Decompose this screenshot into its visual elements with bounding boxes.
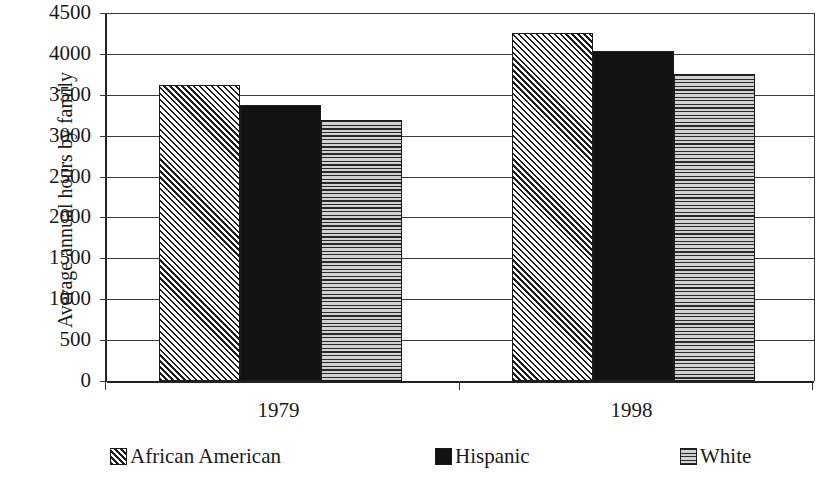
y-axis-tick-label: 3500 [29, 84, 91, 105]
y-axis-tick-label: 3000 [29, 125, 91, 146]
legend-label: Hispanic [455, 446, 530, 467]
gridline [107, 13, 814, 14]
bar-chart: Average annual hours by family 050010001… [0, 0, 826, 489]
chart-legend: African AmericanHispanicWhite [105, 446, 805, 478]
y-axis-tickmark [100, 95, 108, 96]
y-axis-tickmark [100, 381, 108, 382]
y-axis-tick-label: 500 [29, 329, 91, 350]
y-axis-tickmark [100, 299, 108, 300]
legend-label: African American [130, 446, 281, 467]
bar [240, 105, 321, 381]
legend-item: Hispanic [435, 446, 530, 467]
category-axis-tickmark [812, 381, 813, 390]
legend-swatch [435, 448, 452, 465]
bar [593, 51, 674, 381]
category-axis-label: 1979 [219, 400, 339, 421]
y-axis-tickmark [100, 340, 108, 341]
y-axis-tickmark [100, 177, 108, 178]
y-axis-tick-label: 4000 [29, 43, 91, 64]
y-axis-tickmark [100, 217, 108, 218]
y-axis-tick-label: 1500 [29, 247, 91, 268]
bar [674, 74, 755, 381]
y-axis-tick-label: 4500 [29, 2, 91, 23]
plot-area [105, 13, 815, 381]
legend-swatch [680, 448, 697, 465]
bar [159, 85, 240, 381]
y-axis-tick-label: 2500 [29, 166, 91, 187]
bar [512, 33, 593, 381]
category-axis-label: 1998 [572, 400, 692, 421]
y-axis-tickmark [100, 54, 108, 55]
legend-item: White [680, 446, 751, 467]
category-axis-tickmark [105, 381, 106, 390]
legend-item: African American [110, 446, 281, 467]
legend-swatch [110, 448, 127, 465]
y-axis-tick-label: 0 [29, 370, 91, 391]
y-axis-tickmark [100, 136, 108, 137]
category-axis-tickmark [459, 381, 460, 390]
gridline [107, 54, 814, 55]
y-axis-tick-label: 2000 [29, 206, 91, 227]
gridline [107, 381, 814, 383]
y-axis-tick-labels: 050010001500200025003000350040004500 [29, 0, 91, 489]
bar [321, 120, 402, 381]
y-axis-tickmark [100, 13, 108, 14]
y-axis-tick-label: 1000 [29, 288, 91, 309]
legend-label: White [700, 446, 751, 467]
y-axis-tickmark [100, 258, 108, 259]
